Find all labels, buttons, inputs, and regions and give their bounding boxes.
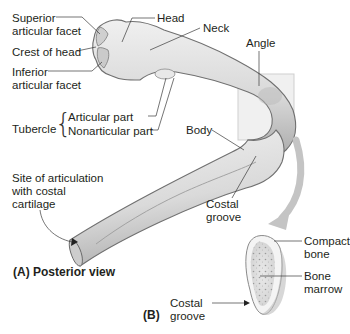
label-superior-articular-facet-line1: Superior (12, 12, 55, 24)
panel-a-title: (A) Posterior view (13, 265, 115, 279)
label-compact-bone-line2: bone (304, 248, 330, 260)
label-costal-groove-a-line2: groove (206, 211, 241, 223)
label-body: Body (186, 124, 212, 136)
label-site-of-articulation-line2: with costal (12, 185, 66, 197)
label-inferior-articular-facet-line1: Inferior (12, 66, 48, 78)
label-bone-marrow-line2: marrow (304, 283, 342, 295)
label-compact-bone-line1: Compact (304, 235, 350, 247)
costal-groove-b-arrowhead (244, 300, 250, 306)
label-inferior-articular-facet-line2: articular facet (12, 79, 81, 91)
label-tubercle: Tubercle (12, 123, 56, 135)
section-arrowhead (268, 210, 290, 230)
label-crest-of-head: Crest of head (12, 46, 81, 58)
tubercle-articular-surface (155, 69, 175, 79)
label-costal-groove-b-line2: groove (170, 310, 205, 322)
label-costal-groove-a-line1: Costal (206, 198, 239, 210)
label-site-of-articulation-line1: Site of articulation (12, 172, 103, 184)
angle-shading (258, 87, 282, 105)
label-site-of-articulation-line3: cartilage (12, 198, 55, 210)
label-superior-articular-facet-line2: articular facet (12, 25, 81, 37)
label-bone-marrow-line1: Bone (304, 270, 331, 282)
label-costal-groove-b-line1: Costal (170, 297, 203, 309)
label-head: Head (157, 12, 185, 24)
label-neck: Neck (203, 22, 229, 34)
label-tubercle-articular-part: Articular part (68, 111, 133, 123)
label-tubercle-nonarticular-part: Nonarticular part (68, 125, 153, 137)
label-angle: Angle (246, 37, 275, 49)
panel-b-title: (B) (143, 308, 160, 322)
